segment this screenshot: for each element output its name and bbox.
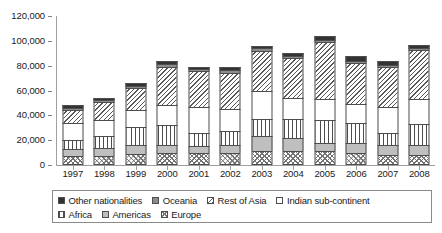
bar-segment [94,148,115,155]
bar-segment [377,61,398,65]
x-tick-mark [199,166,200,170]
bar-group-2003 [246,16,278,165]
bar-stack [220,67,241,165]
x-tick-mark [388,166,389,170]
bar-segment [125,145,146,154]
legend-item-label: Europe [171,210,201,220]
bar-group-1997 [57,16,89,165]
bar-stack [188,67,209,165]
bar-segment [157,67,178,105]
y-tick-mark [48,66,52,67]
bar-segment [409,45,430,48]
bar-segment [283,151,304,165]
legend-swatch-icon [58,211,65,218]
bar-segment [157,64,178,66]
legend-item[interactable]: Africa [58,210,92,220]
legend: Other nationalitiesOceaniaRest of AsiaIn… [52,190,432,223]
bar-stack [314,36,335,165]
bar-segment [251,151,272,165]
bar-segment [125,110,146,126]
bar-segment [125,86,146,88]
bar-segment [220,70,241,72]
bar-segment [377,155,398,165]
x-tick-mark [73,166,74,170]
bar-segment [283,58,304,98]
bar-segment [409,48,430,50]
bar-segment [346,104,367,123]
legend-item[interactable]: Americas [102,210,151,220]
y-tick-mark [48,140,52,141]
bar-segment [283,53,304,55]
bar-segment [409,50,430,100]
legend-item-label: Oceania [163,196,197,206]
legend-item[interactable]: Other nationalities [58,196,142,206]
bar-segment [409,99,430,124]
bar-segment [346,123,367,143]
bar-segment [125,127,146,146]
x-axis: 1997199819992000200120022003200420052006… [57,168,435,182]
bar-segment [251,46,272,48]
x-tick-mark [293,166,294,170]
bar-segment [94,120,115,136]
legend-swatch-icon [152,197,159,204]
bar-segment [62,156,83,165]
bar-segment [157,105,178,125]
bar-segment [283,119,304,138]
y-tick-mark [48,115,52,116]
bar-segment [314,143,335,152]
bar-segment [94,98,115,100]
bar-group-2002 [215,16,247,165]
bar-segment [314,120,335,142]
y-tick-label: 40,000 [17,111,45,121]
bar-segment [346,153,367,165]
bar-segment [125,154,146,165]
y-tick-mark [48,16,52,17]
bar-segment [346,56,367,61]
bar-segment [125,83,146,86]
legend-row-1: Other nationalitiesOceaniaRest of AsiaIn… [58,194,427,207]
bar-segment [409,124,430,145]
bar-segment [251,136,272,151]
bar-stack [94,98,115,165]
legend-item[interactable]: Europe [161,210,201,220]
bar-group-2008 [404,16,436,165]
x-axis-line [56,165,435,166]
bar-segment [62,140,83,150]
bar-segment [283,56,304,58]
bar-stack [125,83,146,165]
legend-swatch-icon [276,197,283,204]
bar-segment [62,110,83,124]
legend-item-label: Indian sub-continent [287,196,370,206]
y-tick-label: 80,000 [17,61,45,71]
legend-item[interactable]: Oceania [152,196,197,206]
bar-segment [94,102,115,119]
bar-segment [251,51,272,91]
x-tick-mark [230,166,231,170]
y-tick-mark [48,91,52,92]
bar-stack [251,46,272,165]
bar-segment [220,131,241,145]
bar-group-2001 [183,16,215,165]
bar-segment [125,88,146,110]
bar-group-1998 [89,16,121,165]
bar-segment [157,61,178,65]
bar-segment [377,145,398,155]
bar-group-2007 [372,16,404,165]
y-tick-label: 0 [40,160,45,170]
bar-segment [377,67,398,107]
bar-segment [62,108,83,110]
bar-segment [94,156,115,165]
bar-segment [157,145,178,153]
bar-segment [283,98,304,119]
x-tick-mark [167,166,168,170]
y-tick-label: 100,000 [11,36,45,46]
legend-item-label: Other nationalities [69,196,143,206]
bar-stack [62,105,83,165]
bar-group-2004 [278,16,310,165]
legend-item[interactable]: Rest of Asia [207,196,266,206]
bar-segment [314,40,335,42]
legend-item[interactable]: Indian sub-continent [276,196,369,206]
bar-segment [188,146,209,153]
bar-segment [62,149,83,156]
legend-item-label: Americas [112,210,150,220]
